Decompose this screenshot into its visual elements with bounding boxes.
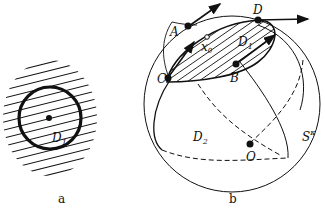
arc-c-left <box>154 80 170 150</box>
label-d1: D1 <box>237 35 253 51</box>
sphere-outline <box>144 16 320 192</box>
point-x0 <box>205 35 210 40</box>
arrow-at-top <box>189 4 220 26</box>
label-d2: D2 <box>192 130 208 146</box>
center-point <box>46 115 52 121</box>
label-d1: D1 <box>51 131 67 147</box>
figure-b: A D C B O x0 D1 D2 Sκ b <box>125 0 320 206</box>
label-c: C <box>157 72 166 86</box>
point-d <box>255 17 262 24</box>
label-a: A <box>169 25 179 39</box>
point-top <box>185 23 192 30</box>
diagram-svg: D1 a <box>0 0 325 212</box>
caption-a: a <box>58 192 65 206</box>
label-d: D <box>252 3 263 17</box>
caption-b: b <box>229 192 237 206</box>
figure-a: D1 a <box>0 45 120 212</box>
label-o: O <box>246 150 256 164</box>
label-sphere: Sκ <box>302 128 316 144</box>
label-x0: x0 <box>201 40 213 55</box>
hatched-region <box>0 45 120 212</box>
arrow-at-d <box>257 19 308 20</box>
label-b: B <box>229 71 239 85</box>
point-b <box>233 61 240 68</box>
diagram-canvas: D1 a <box>0 0 325 212</box>
point-o <box>247 141 254 148</box>
arrow-at-c <box>167 42 194 79</box>
